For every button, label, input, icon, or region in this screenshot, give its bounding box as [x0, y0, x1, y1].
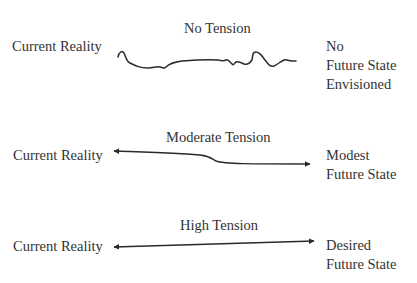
- right-label-line: Future State: [326, 56, 396, 75]
- no-tension-wavy-line: [118, 52, 296, 69]
- no-future-state-label: No Future State Envisioned: [326, 37, 396, 94]
- current-reality-label-row1: Current Reality: [12, 37, 102, 56]
- high-tension-arrow: [114, 241, 314, 247]
- right-label-line: Desired: [326, 236, 396, 255]
- right-label-line: Future State: [326, 165, 396, 184]
- current-reality-label-row2: Current Reality: [13, 146, 103, 165]
- modest-future-state-label: Modest Future State: [326, 146, 396, 184]
- right-label-line: No: [326, 37, 396, 56]
- high-tension-label: High Tension: [180, 216, 258, 234]
- right-label-line: Modest: [326, 146, 396, 165]
- current-reality-label-row3: Current Reality: [13, 237, 103, 256]
- moderate-tension-label: Moderate Tension: [166, 128, 271, 146]
- desired-future-state-label: Desired Future State: [326, 236, 396, 274]
- right-label-line: Envisioned: [326, 75, 396, 94]
- moderate-tension-arrow: [114, 151, 310, 164]
- right-label-line: Future State: [326, 255, 396, 274]
- no-tension-label: No Tension: [184, 19, 251, 37]
